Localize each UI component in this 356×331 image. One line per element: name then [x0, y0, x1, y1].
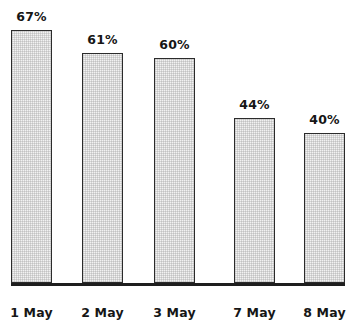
bar-rect [154, 58, 195, 283]
bar-rect [304, 133, 345, 283]
bar-value-label: 67% [11, 9, 52, 24]
bar-value-label: 44% [234, 97, 275, 112]
bar-rect [11, 30, 52, 283]
bar-value-label: 60% [154, 37, 195, 52]
x-axis-baseline [11, 283, 345, 286]
x-axis-tick-label: 7 May [229, 305, 280, 320]
plot-area: 67% 61% 60% 44% 40% 1 May 2 May 3 May 7 … [0, 0, 356, 331]
x-axis-tick-label: 2 May [77, 305, 128, 320]
bar-value-label: 61% [82, 32, 123, 47]
x-axis-tick-label: 1 May [6, 305, 57, 320]
bar-chart: 67% 61% 60% 44% 40% 1 May 2 May 3 May 7 … [0, 0, 356, 331]
bar-rect [234, 118, 275, 283]
bar-value-label: 40% [304, 112, 345, 127]
bar-rect [82, 53, 123, 283]
x-axis-tick-label: 3 May [149, 305, 200, 320]
x-axis-tick-label: 8 May [299, 305, 350, 320]
